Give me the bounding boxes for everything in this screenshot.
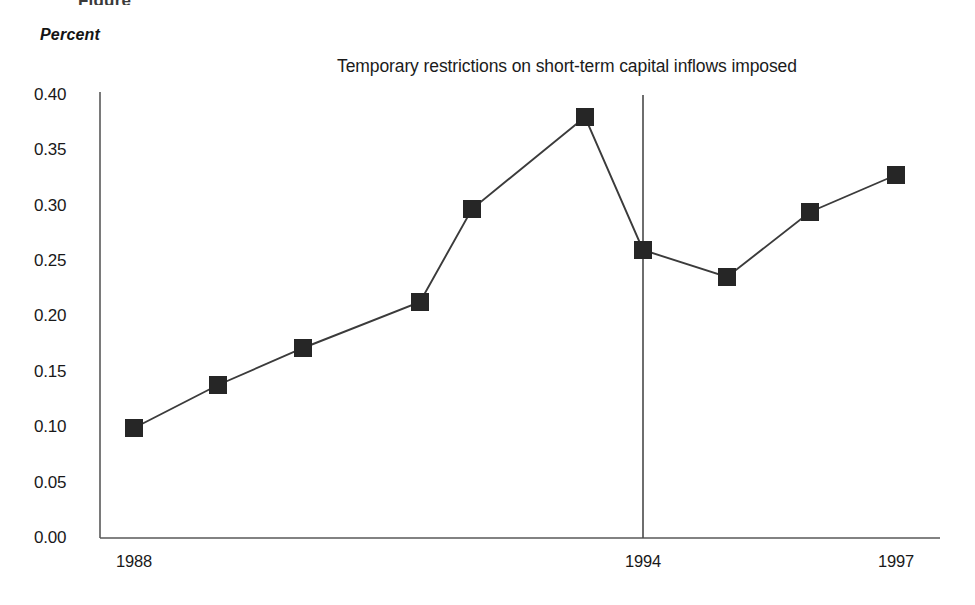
data-marker (209, 376, 227, 394)
data-marker (125, 419, 143, 437)
data-marker (411, 293, 429, 311)
data-marker (634, 241, 652, 259)
data-marker (887, 166, 905, 184)
data-marker (463, 200, 481, 218)
data-marker (801, 203, 819, 221)
plot-area (0, 0, 975, 605)
data-markers (125, 108, 905, 437)
data-marker (294, 339, 312, 357)
data-line (134, 117, 896, 428)
chart-figure: Figure Percent 0.40 0.35 0.30 0.25 0.20 … (0, 0, 975, 605)
data-marker (718, 268, 736, 286)
data-marker (576, 108, 594, 126)
